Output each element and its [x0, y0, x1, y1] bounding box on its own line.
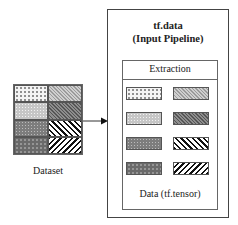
pipeline-title: tf.data (Input Pipeline) [107, 19, 229, 45]
extraction-label: Extraction [122, 63, 218, 74]
tensor-swatch-dots-dark [126, 137, 162, 150]
dataset-cell-diag-light [48, 85, 82, 102]
pipeline-title-line1: tf.data [107, 19, 229, 32]
dataset-grid [13, 84, 83, 155]
tensor-swatch-diag-light [173, 87, 209, 100]
dataset-cell-stripe-back [48, 120, 82, 137]
pipeline-title-line2: (Input Pipeline) [107, 32, 229, 45]
dataset-cell-dots-light [14, 85, 48, 102]
dataset-cell-dots-dark [14, 120, 48, 137]
dataset-cell-dots-mid [14, 102, 48, 119]
output-label: Data (tf.tensor) [122, 188, 218, 199]
dataset-cell-diag-dark [48, 102, 82, 119]
dataset-label: Dataset [8, 165, 88, 176]
arrow-right-icon [82, 116, 109, 126]
tensor-swatch-dots-mid [126, 112, 162, 125]
dataset-cell-stripe-fwd [48, 137, 82, 154]
dataset-cell-dots-darker [14, 137, 48, 154]
tensor-swatch-stripe-fwd [173, 162, 209, 175]
tensor-swatch-dots-light [126, 87, 162, 100]
tensor-swatch-stripe-back [173, 137, 209, 150]
tensor-swatch-diag-dark [173, 112, 209, 125]
extraction-divider [122, 79, 218, 80]
tensor-swatch-dots-darker [126, 162, 162, 175]
